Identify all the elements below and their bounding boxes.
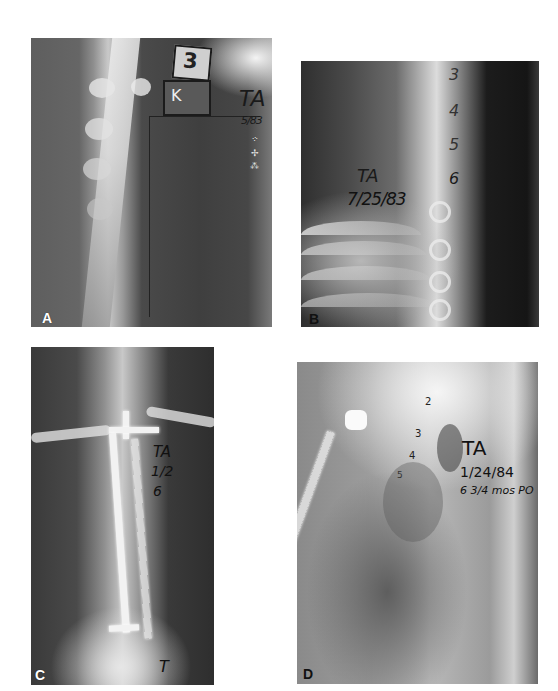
vertebra-number: 4 (449, 101, 459, 120)
annotation-initials: TA (357, 165, 379, 186)
annotation-initials: TA (462, 436, 486, 460)
annotation-initials: TA (239, 86, 265, 111)
annotation-box-3: 3 (172, 44, 213, 81)
annotation-letter: K (171, 86, 182, 105)
annotation-outline (149, 116, 260, 317)
vertebra (83, 158, 111, 180)
clavicle-left (31, 425, 111, 443)
annotation-date: 1/2 (151, 463, 174, 479)
panel-label-b: B (309, 311, 319, 327)
vertebra-number: 5 (397, 470, 403, 480)
xray-panel-d: 2 3 4 5 TA 1/24/84 6 3/4 mos PO D (297, 362, 538, 684)
pedicle (429, 271, 451, 293)
vertebra (85, 118, 113, 140)
vertebra-number: 3 (449, 65, 459, 84)
pedicle (429, 201, 451, 223)
annotation-number: 3 (182, 48, 199, 73)
annotation-initials: TA (153, 443, 171, 461)
panel-label-d: D (303, 666, 313, 682)
implant-crossbar-top (109, 427, 159, 433)
dotted-marks: ⁂ (250, 161, 259, 171)
annotation-date: 7/25/83 (347, 189, 406, 209)
xray-panel-c: TA 1/2 6 T C (31, 347, 214, 685)
dotted-marks: ✢ (251, 148, 259, 158)
pedicle (429, 239, 451, 261)
vertebra-number: 5 (449, 135, 459, 154)
implant-rod-left (109, 433, 130, 633)
lung-shadow (383, 462, 443, 542)
xray-panel-a: 3 K TA 5/83 ⁘ ✢ ⁂ A (31, 38, 272, 327)
vertebra-number: 3 (415, 428, 421, 439)
annotation-note: 6 3/4 mos PO (460, 484, 534, 497)
vertebra (89, 78, 115, 98)
implant-rod (297, 431, 335, 593)
implant-rod-right (131, 439, 152, 639)
vertebra-number: 6 (449, 169, 459, 188)
annotation-date: 5/83 (241, 114, 262, 127)
rib (301, 293, 436, 307)
panel-label-a: A (42, 310, 52, 326)
implant-crossbar-bottom (109, 624, 139, 632)
xray-panel-b: 3 4 5 6 TA 7/25/83 B (301, 61, 539, 327)
dotted-marks: ⁘ (251, 134, 259, 144)
vertebra (87, 198, 113, 220)
vertebra-number: 4 (409, 450, 415, 461)
implant-rod-top (123, 411, 129, 439)
vertebra (131, 78, 151, 96)
pedicle (429, 299, 451, 321)
annotation-mark: T (159, 657, 169, 676)
rib (301, 241, 426, 255)
vertebra-number: 2 (425, 396, 431, 407)
annotation-note: 6 (153, 483, 162, 499)
marker-blob (345, 410, 367, 430)
annotation-box-k: K (163, 80, 211, 116)
rib (301, 221, 421, 235)
clavicle-right (146, 406, 214, 428)
rib (301, 266, 431, 280)
annotation-date: 1/24/84 (460, 464, 514, 480)
panel-label-c: C (35, 667, 45, 683)
